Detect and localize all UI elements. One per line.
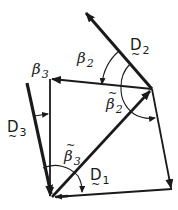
label-d3: D3 ~ <box>7 120 26 135</box>
label-d2: D2 ~ <box>130 38 149 53</box>
arc-beta3 <box>34 114 48 116</box>
label-beta3: β3 <box>32 62 48 77</box>
vector-right <box>152 89 171 188</box>
label-beta2-tilde: ~ β2 <box>106 97 122 112</box>
arc-beta2 <box>102 51 119 84</box>
label-d1: D1 ~ <box>90 168 109 183</box>
bottom-arrow-tip <box>56 196 68 197</box>
vector-bottom <box>55 189 172 197</box>
diagram-lines <box>0 0 178 210</box>
vector-d3 <box>27 83 51 194</box>
vector-diagram: D2 ~ β2 β3 ~ β2 D3 ~ ~ β3 D1 ~ <box>0 0 178 210</box>
label-beta2: β2 <box>77 51 93 66</box>
label-beta3-tilde: ~ β3 <box>64 149 80 164</box>
